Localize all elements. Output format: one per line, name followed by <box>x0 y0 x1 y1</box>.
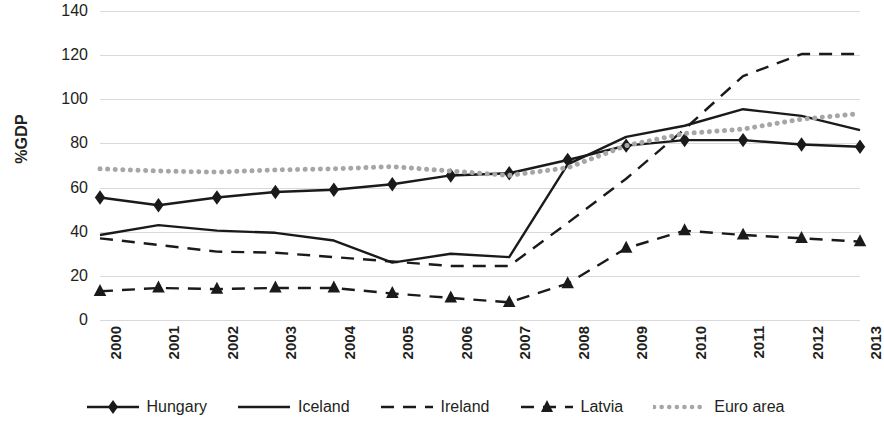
y-axis-tick-label: 60 <box>28 179 88 197</box>
data-point-marker <box>678 223 691 235</box>
legend-swatch-solid <box>237 399 291 415</box>
legend-label: Euro area <box>714 398 784 416</box>
data-point-marker <box>387 177 397 191</box>
data-point-marker <box>855 140 865 154</box>
plot-area: 140120100806040200 <box>100 11 860 320</box>
data-point-marker <box>269 281 282 293</box>
x-axis-tick-label: 2012 <box>809 326 826 359</box>
legend-item-iceland[interactable]: Iceland <box>237 398 350 416</box>
y-axis-tick-label: 40 <box>28 223 88 241</box>
gridline <box>100 320 860 321</box>
y-axis-tick-label: 100 <box>28 90 88 108</box>
x-axis-tick-label: 2011 <box>750 326 767 359</box>
x-axis: 2000200120022003200420052006200720082009… <box>100 322 860 392</box>
data-point-marker <box>95 190 105 204</box>
y-axis-tick-label: 120 <box>28 46 88 64</box>
x-axis-tick-label: 2013 <box>867 326 884 359</box>
data-point-marker <box>620 241 633 253</box>
x-axis-tick-label: 2004 <box>341 326 358 359</box>
y-axis-tick-label: 20 <box>28 267 88 285</box>
data-point-marker <box>796 137 806 151</box>
legend-item-ireland[interactable]: Ireland <box>380 398 490 416</box>
data-point-marker <box>328 281 341 293</box>
data-point-marker <box>738 133 748 147</box>
y-axis-tick-label: 80 <box>28 134 88 152</box>
x-axis-tick-label: 2000 <box>107 326 124 359</box>
legend-item-hungary[interactable]: Hungary <box>86 398 207 416</box>
x-axis-tick-label: 2001 <box>165 326 182 359</box>
legend-item-euro-area[interactable]: Euro area <box>653 398 784 416</box>
x-axis-tick-label: 2003 <box>282 326 299 359</box>
series-layer <box>100 11 860 320</box>
series-line <box>100 114 860 176</box>
x-axis-tick-label: 2002 <box>224 326 241 359</box>
x-axis-tick-label: 2007 <box>516 326 533 359</box>
data-point-marker <box>153 198 163 212</box>
x-axis-tick-label: 2009 <box>633 326 650 359</box>
data-point-marker <box>737 228 750 240</box>
legend-item-latvia[interactable]: Latvia <box>520 398 624 416</box>
data-point-marker <box>211 282 224 294</box>
x-axis-tick-label: 2010 <box>692 326 709 359</box>
legend-label: Hungary <box>147 398 207 416</box>
data-point-marker <box>561 276 574 288</box>
x-axis-tick-label: 2008 <box>575 326 592 359</box>
legend-swatch-dashed-triangle <box>520 399 574 415</box>
legend-swatch-solid-diamond <box>86 399 140 415</box>
data-point-marker <box>152 281 165 293</box>
legend-label: Ireland <box>441 398 490 416</box>
legend-label: Iceland <box>298 398 350 416</box>
x-axis-tick-label: 2006 <box>458 326 475 359</box>
x-axis-tick-label: 2005 <box>399 326 416 359</box>
legend-swatch-dotted <box>653 399 707 415</box>
y-axis-tick-label: 140 <box>28 2 88 20</box>
data-point-marker <box>212 190 222 204</box>
legend-swatch-dashed <box>380 399 434 415</box>
data-point-marker <box>444 291 457 303</box>
data-point-marker <box>329 183 339 197</box>
legend-label: Latvia <box>581 398 624 416</box>
data-point-marker <box>270 185 280 199</box>
chart-legend: HungaryIcelandIrelandLatviaEuro area <box>0 398 870 416</box>
series-euro-area <box>100 114 860 176</box>
y-axis-tick-label: 0 <box>28 311 88 329</box>
